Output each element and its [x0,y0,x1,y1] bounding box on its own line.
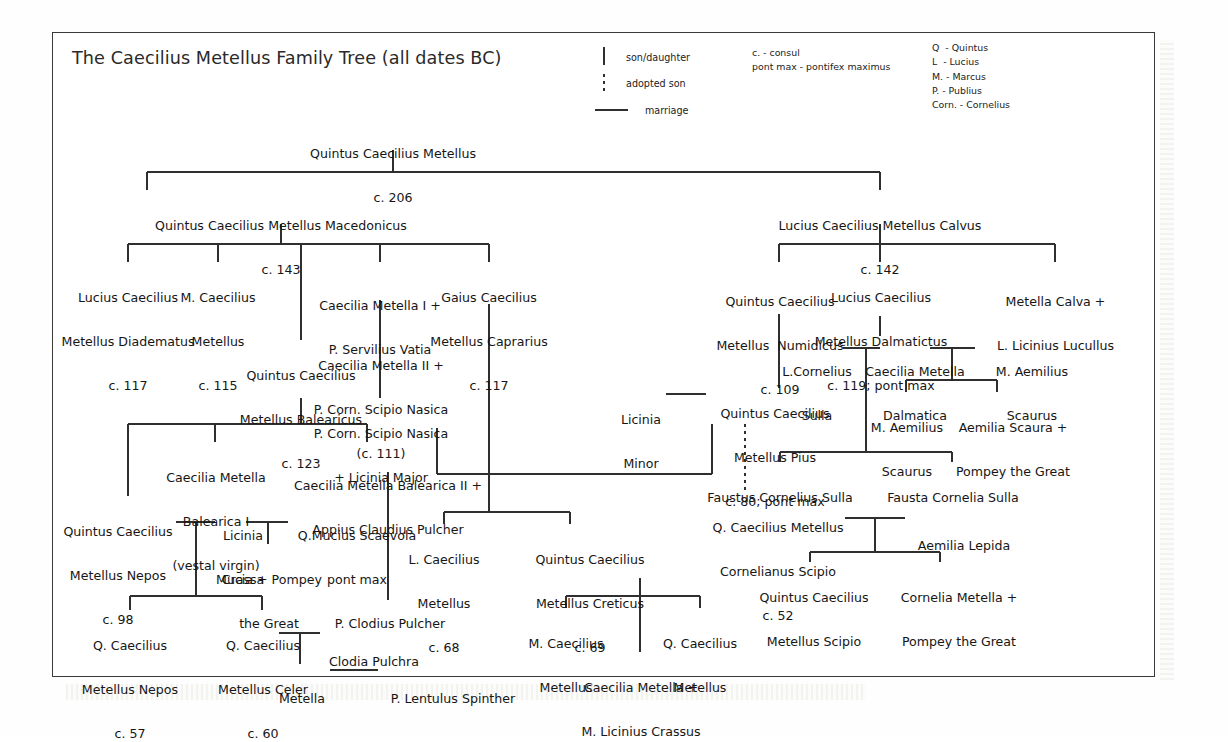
person-node-l-metellus-68: L. Caecilius Metellus c. 68 [386,524,502,685]
person-node-cornelia-metella: Cornelia Metella + Pompey the Great [880,562,1038,679]
person-node-metella-crassus: Caecilia Metella + M. Licinius Crassus [552,652,730,742]
person-node-metellus-scipio: Quintus Caecilius Metellus Scipio [748,562,880,679]
legend-term-abbreviations: c. - consul pont max - pontifex maximus [752,46,890,74]
person-node-licinia-minor: Licinia Minor [612,384,670,501]
page-title: The Caecilius Metellus Family Tree (all … [72,48,502,68]
legend-son-daughter-label: son/daughter [626,52,690,63]
scan-artifact-right [1160,40,1174,680]
legend-marriage-label: marriage [645,105,688,116]
person-node-nepos-younger: Q. Caecilius Metellus Nepos c. 57 [68,610,192,742]
person-node-metella-lentulus: Metella [272,663,332,736]
legend-adopted-son-label: adopted son [626,78,686,89]
legend-name-abbreviations: Q - Quintus L - Lucius M. - Marcus P. - … [932,41,1010,112]
